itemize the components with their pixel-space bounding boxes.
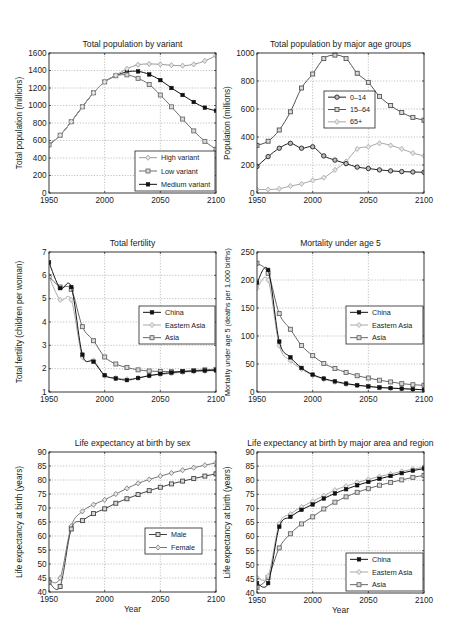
data-point-marker [333, 366, 337, 370]
data-point-marker [288, 532, 292, 536]
legend-label: Low variant [161, 167, 198, 176]
y-tick-label: 45 [245, 575, 255, 584]
y-tick-label: 150 [241, 304, 255, 313]
data-point-marker [277, 340, 281, 344]
legend-label: High variant [161, 153, 199, 162]
x-tick-label: 2100 [207, 196, 226, 205]
data-point-marker [344, 57, 348, 61]
y-axis-label: Total population (millions) [15, 77, 24, 170]
y-tick-label: 60 [37, 532, 47, 541]
data-point-marker [411, 469, 415, 473]
y-tick-label: 90 [245, 448, 255, 457]
y-axis-label: Mortality under age 5 (deaths per 1,000 … [223, 248, 232, 396]
data-point-marker [366, 376, 370, 380]
data-point-marker [192, 369, 196, 373]
data-point-marker [125, 73, 129, 77]
y-tick-label: 65 [37, 518, 47, 527]
y-tick-label: 100 [241, 332, 255, 341]
y-tick-label: 90 [37, 448, 47, 457]
y-tick-label: 0 [42, 189, 47, 198]
legend-label: China [165, 308, 184, 317]
data-point-marker [378, 477, 382, 481]
legend-label: Male [171, 530, 187, 539]
legend-label: 0–14 [350, 93, 366, 102]
legend-marker [150, 311, 154, 315]
chart-pop-age: 195020002050210002004006008001000Total p… [223, 39, 434, 205]
data-point-marker [169, 482, 173, 486]
data-point-marker [69, 527, 73, 531]
data-point-marker [377, 483, 381, 487]
data-point-marker [288, 141, 292, 145]
x-tick-label: 2000 [304, 395, 323, 404]
data-point-marker [69, 285, 73, 289]
x-tick-label: 2050 [359, 395, 378, 404]
data-point-marker [136, 376, 140, 380]
data-point-marker [92, 339, 96, 343]
data-point-marker [181, 93, 185, 97]
y-tick-label: 50 [245, 561, 255, 570]
data-point-marker [158, 485, 162, 489]
legend-label: Asia [165, 333, 179, 342]
legend-marker [335, 108, 339, 112]
y-tick-label: 85 [245, 462, 255, 471]
data-point-marker [266, 581, 270, 585]
data-point-marker [266, 154, 270, 158]
data-point-marker [114, 377, 118, 381]
data-point-marker [366, 166, 370, 170]
y-tick-label: 40 [37, 588, 47, 597]
data-point-marker [300, 344, 304, 348]
x-tick-label: 2100 [207, 595, 226, 604]
data-point-marker [277, 525, 281, 529]
y-tick-label: 200 [241, 276, 255, 285]
y-tick-label: 600 [33, 136, 47, 145]
data-point-marker [333, 158, 337, 162]
data-point-marker [277, 546, 281, 550]
data-point-marker [136, 70, 140, 74]
y-tick-label: 80 [37, 476, 47, 485]
chart-title: Total population by major age groups [270, 39, 411, 49]
data-point-marker [266, 139, 270, 143]
y-tick-label: 1 [42, 388, 47, 397]
y-tick-label: 1600 [28, 49, 47, 58]
chart-mortality: 1950200020502100050100150200250Mortality… [223, 238, 434, 404]
data-point-marker [81, 353, 85, 357]
data-point-marker [344, 370, 348, 374]
legend-label: 15–64 [350, 105, 370, 114]
data-point-marker [203, 369, 207, 373]
x-tick-label: 2050 [151, 395, 170, 404]
data-point-marker [333, 380, 337, 384]
y-tick-label: 400 [241, 133, 255, 142]
y-tick-label: 70 [37, 504, 47, 513]
data-point-marker [411, 475, 415, 479]
data-point-marker [114, 362, 118, 366]
x-tick-label: 2050 [359, 196, 378, 205]
legend-label: China [372, 555, 391, 564]
y-axis-label: Life expectancy at birth (years) [223, 466, 232, 578]
legend-label: Medium variant [161, 180, 210, 189]
data-point-marker [103, 373, 107, 377]
y-tick-label: 600 [241, 105, 255, 114]
y-tick-label: 55 [245, 547, 255, 556]
data-point-marker [333, 53, 337, 57]
data-point-marker [300, 86, 304, 90]
data-point-marker [322, 57, 326, 61]
data-point-marker [400, 471, 404, 475]
data-point-marker [355, 165, 359, 169]
data-point-marker [355, 383, 359, 387]
data-point-marker [147, 374, 151, 378]
data-point-marker [203, 139, 207, 143]
y-tick-label: 55 [37, 546, 47, 555]
data-point-marker [300, 366, 304, 370]
data-point-marker [147, 369, 151, 373]
chart-title: Total fertility [110, 238, 156, 248]
data-point-marker [103, 507, 107, 511]
chart-title: Life expectancy at birth by sex [75, 438, 191, 448]
data-point-marker [311, 515, 315, 519]
legend-marker [146, 169, 150, 173]
legend-label: Asia [372, 333, 386, 342]
y-tick-label: 7 [42, 248, 47, 257]
x-tick-label: 2100 [415, 196, 434, 205]
data-point-marker [288, 110, 292, 114]
data-point-marker [103, 355, 107, 359]
legend-label: Eastern Asia [372, 321, 412, 330]
